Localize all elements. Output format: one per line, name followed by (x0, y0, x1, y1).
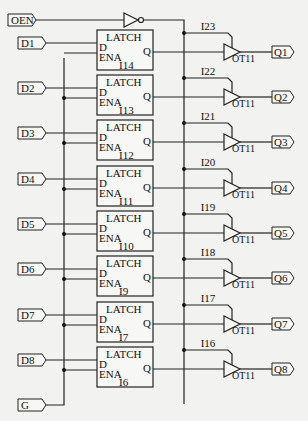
latch-i11[interactable]: LATCHDENAQI11 (97, 166, 153, 207)
input-port-d4[interactable]: D4 (18, 173, 46, 185)
input-port-d4-label: D4 (21, 173, 35, 185)
latch-title: LATCH (106, 303, 142, 315)
output-port-q2-label: Q2 (274, 91, 287, 103)
latch-pin-q: Q (143, 45, 151, 57)
latch-i6[interactable]: LATCHDENAQI6 (97, 347, 153, 388)
latch-i9[interactable]: LATCHDENAQI9 (97, 256, 153, 297)
tristate-buffer-icon-2: OT11 (224, 89, 255, 109)
latch-instance-label: I9 (119, 285, 129, 297)
input-port-d1-label: D1 (21, 37, 34, 49)
input-port-d6[interactable]: D6 (18, 263, 46, 275)
buffer-instance-label: I20 (201, 156, 216, 168)
latch-instance-label: I13 (119, 104, 134, 116)
input-port-oen-label: OEN (11, 14, 34, 26)
input-port-d3[interactable]: D3 (18, 127, 46, 139)
output-port-q4-label: Q4 (274, 182, 288, 194)
input-port-d1[interactable]: D1 (18, 37, 46, 49)
latch-instance-label: I10 (119, 240, 134, 252)
latch-i12[interactable]: LATCHDENAQI12 (97, 120, 153, 161)
latch-instance-label: I12 (119, 149, 134, 161)
tristate-buffer-icon-3: OT11 (224, 134, 255, 154)
input-port-d6-label: D6 (21, 263, 35, 275)
latch-title: LATCH (106, 31, 142, 43)
buffer-type-label: OT11 (232, 279, 255, 290)
latch-instance-label: I14 (119, 59, 134, 71)
output-port-q7-label: Q7 (274, 318, 288, 330)
tristate-buffer-icon-8: OT11 (224, 361, 255, 381)
latch-pin-q: Q (143, 135, 151, 147)
latch-pin-q: Q (143, 226, 151, 238)
buffer-type-label: OT11 (232, 325, 255, 336)
latch-i10[interactable]: LATCHDENAQI10 (97, 211, 153, 252)
input-port-d7[interactable]: D7 (18, 309, 46, 321)
output-port-q1-label: Q1 (274, 46, 287, 58)
tristate-buffer-icon-1: OT11 (224, 44, 255, 64)
latch-pin-q: Q (143, 362, 151, 374)
buffer-type-label: OT11 (232, 143, 255, 154)
latch-i7[interactable]: LATCHDENAQI7 (97, 302, 153, 343)
latch-instance-label: I7 (119, 331, 129, 343)
buffer-instance-label: I21 (201, 110, 216, 122)
latch-i13[interactable]: LATCHDENAQI13 (97, 75, 153, 116)
output-port-q8-label: Q8 (274, 363, 288, 375)
tristate-buffer-icon-7: OT11 (224, 316, 255, 336)
tristate-buffer-icon-5: OT11 (224, 225, 255, 245)
input-port-d2-label: D2 (21, 82, 34, 94)
output-port-q8[interactable]: Q8 (272, 363, 294, 375)
input-port-d8-label: D8 (21, 354, 35, 366)
latch-pin-q: Q (143, 271, 151, 283)
output-port-q6[interactable]: Q6 (272, 272, 294, 284)
buffer-instance-label: I17 (201, 292, 216, 304)
buffer-instance-label: I22 (201, 65, 216, 77)
input-port-oen[interactable]: OEN (8, 14, 36, 26)
latch-title: LATCH (106, 76, 142, 88)
buffer-instance-label: I18 (201, 246, 216, 258)
buffer-type-label: OT11 (232, 53, 255, 64)
tristate-buffer-icon-4: OT11 (224, 180, 255, 200)
tristate-buffer-icon-6: OT11 (224, 270, 255, 290)
buffer-type-label: OT11 (232, 234, 255, 245)
buffer-type-label: OT11 (232, 189, 255, 200)
input-port-g[interactable]: G (18, 399, 46, 411)
input-port-d3-label: D3 (21, 127, 35, 139)
output-port-q7[interactable]: Q7 (272, 318, 294, 330)
latch-title: LATCH (106, 257, 142, 269)
latch-title: LATCH (106, 212, 142, 224)
latch-title: LATCH (106, 348, 142, 360)
input-port-g-label: G (21, 399, 29, 411)
input-port-d5[interactable]: D5 (18, 218, 46, 230)
latch-title: LATCH (106, 121, 142, 133)
buffer-type-label: OT11 (232, 98, 255, 109)
buffer-instance-label: I16 (201, 337, 216, 349)
latch-pin-q: Q (143, 317, 151, 329)
inverter-icon (124, 13, 144, 27)
input-port-d7-label: D7 (21, 309, 35, 321)
output-port-q3-label: Q3 (274, 136, 288, 148)
output-port-q3[interactable]: Q3 (272, 136, 294, 148)
output-port-q2[interactable]: Q2 (272, 91, 294, 103)
output-port-q4[interactable]: Q4 (272, 182, 294, 194)
input-port-d5-label: D5 (21, 218, 35, 230)
latch-instance-label: I6 (119, 376, 129, 388)
input-port-d2[interactable]: D2 (18, 82, 46, 94)
input-port-d8[interactable]: D8 (18, 354, 46, 366)
output-port-q5-label: Q5 (274, 227, 288, 239)
output-port-q6-label: Q6 (274, 272, 288, 284)
buffer-type-label: OT11 (232, 370, 255, 381)
output-port-q5[interactable]: Q5 (272, 227, 294, 239)
latch-pin-q: Q (143, 181, 151, 193)
latch-pin-q: Q (143, 90, 151, 102)
latch-instance-label: I11 (119, 195, 133, 207)
schematic-canvas: OENGD1LATCHDENAQI14I23OT11Q1D2LATCHDENAQ… (0, 0, 308, 421)
output-port-q1[interactable]: Q1 (272, 46, 294, 58)
buffer-instance-label: I19 (201, 201, 216, 213)
latch-i14[interactable]: LATCHDENAQI14 (97, 30, 153, 71)
buffer-instance-label: I23 (201, 20, 216, 32)
latch-title: LATCH (106, 167, 142, 179)
